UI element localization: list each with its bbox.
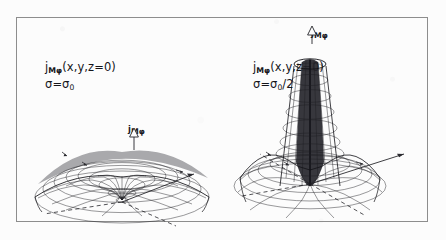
- surface-plot-left: [26, 130, 216, 222]
- mesh-radials-left: [38, 175, 206, 216]
- caption-left-line2: σ=σ0: [45, 77, 116, 93]
- figure-container: jMφ(x,y,z=0) σ=σ0 jMφ(x,y,z=0) σ=σ0/2 jM…: [0, 0, 446, 240]
- mesh-surface-right: [234, 59, 386, 218]
- caption-left-line1: jMφ(x,y,z=0): [45, 60, 116, 76]
- x-axis-right: [310, 154, 404, 184]
- mesh-surface-left: [35, 150, 209, 223]
- ground-axes-left: [44, 202, 176, 226]
- x-axis-left: [122, 174, 194, 202]
- surface-plot-right: [236, 36, 426, 222]
- z-axis-arrow-left: [130, 128, 139, 150]
- caption-left-panel: jMφ(x,y,z=0) σ=σ0: [45, 60, 116, 93]
